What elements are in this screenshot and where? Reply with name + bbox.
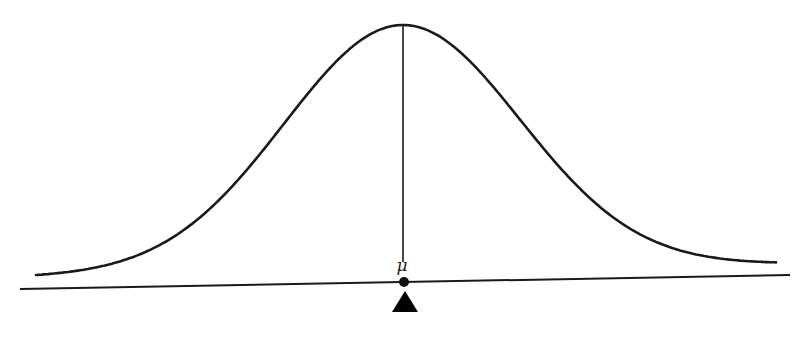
mean-label: μ xyxy=(396,255,407,275)
normal-distribution-diagram: μ xyxy=(0,0,807,339)
fulcrum-triangle-icon xyxy=(392,291,418,312)
mean-point-icon xyxy=(399,277,409,287)
bell-curve xyxy=(36,25,776,275)
